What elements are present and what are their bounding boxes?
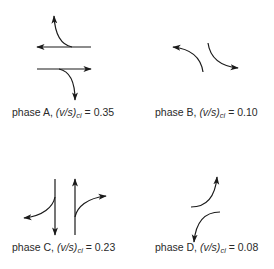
phase-label: phase A,: [12, 106, 53, 118]
phase-b-panel: phase B, (v/s)ci = 0.10: [137, 0, 274, 134]
critical-ratio-value: 0.10: [237, 106, 257, 118]
critical-ratio-value: 0.08: [238, 241, 258, 253]
critical-ratio-value: 0.23: [95, 241, 115, 253]
ratio-subscript: ci: [77, 246, 82, 255]
ratio-symbol: (v/s): [199, 106, 219, 118]
phase-label: phase C,: [12, 241, 54, 253]
phase-c-panel: phase C, (v/s)ci = 0.23: [0, 135, 137, 269]
ratio-symbol: (v/s): [56, 106, 76, 118]
ratio-symbol: (v/s): [200, 241, 220, 253]
phase-d-caption: phase D, (v/s)ci = 0.08: [155, 241, 258, 255]
ratio-subscript: ci: [220, 246, 225, 255]
phase-d-panel: phase D, (v/s)ci = 0.08: [137, 135, 274, 269]
equals-sign: =: [228, 106, 234, 118]
phase-label: phase B,: [155, 106, 196, 118]
equals-sign: =: [86, 241, 92, 253]
phase-a-panel: phase A, (v/s)ci = 0.35: [0, 0, 137, 134]
phase-b-caption: phase B, (v/s)ci = 0.10: [155, 106, 258, 120]
critical-ratio-value: 0.35: [94, 106, 114, 118]
equals-sign: =: [229, 241, 235, 253]
phase-c-caption: phase C, (v/s)ci = 0.23: [12, 241, 115, 255]
equals-sign: =: [85, 106, 91, 118]
ratio-subscript: ci: [76, 111, 81, 120]
phase-a-caption: phase A, (v/s)ci = 0.35: [12, 106, 114, 120]
phase-label: phase D,: [155, 241, 197, 253]
ratio-subscript: ci: [220, 111, 225, 120]
ratio-symbol: (v/s): [57, 241, 77, 253]
